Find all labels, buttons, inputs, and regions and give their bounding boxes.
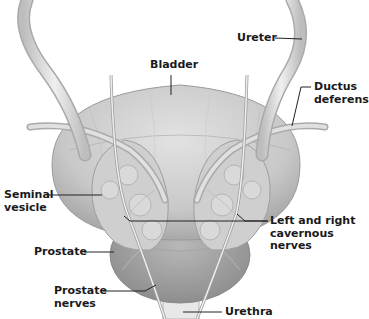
label-seminal-line1: Seminal bbox=[4, 189, 54, 202]
label-prostate: Prostate bbox=[34, 246, 87, 259]
label-cavernous-line1: Left and right bbox=[270, 215, 355, 228]
label-cavernous-nerves: Left and right cavernous nerves bbox=[270, 215, 355, 253]
label-urethra: Urethra bbox=[225, 306, 273, 319]
label-seminal-line2: vesicle bbox=[4, 202, 54, 215]
label-cavernous-line3: nerves bbox=[270, 240, 355, 253]
label-ductus-line2: deferens bbox=[314, 94, 369, 107]
label-bladder: Bladder bbox=[150, 59, 198, 72]
label-prostate-nerves-line1: Prostate bbox=[54, 285, 107, 298]
label-prostate-nerves-line2: nerves bbox=[54, 298, 107, 311]
label-seminal-vesicle: Seminal vesicle bbox=[4, 189, 54, 214]
leader-ductus bbox=[292, 87, 311, 126]
label-ductus-line1: Ductus bbox=[314, 81, 369, 94]
label-ureter: Ureter bbox=[237, 32, 277, 45]
label-prostate-nerves: Prostate nerves bbox=[54, 285, 107, 310]
label-ductus-deferens: Ductus deferens bbox=[314, 81, 369, 106]
